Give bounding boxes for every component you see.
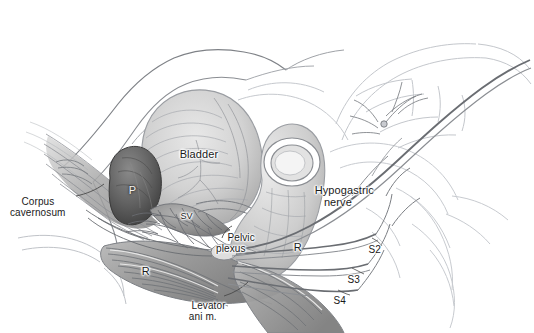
hypogastric-ganglion bbox=[381, 121, 387, 127]
label-bladder: Bladder bbox=[167, 136, 218, 172]
label-rectum-lower: R bbox=[129, 253, 150, 289]
label-seminal-vesicle: SV bbox=[170, 201, 193, 231]
label-levator-ani: Levator ani m. bbox=[180, 289, 226, 333]
label-sacral-s4: S4 bbox=[322, 284, 346, 317]
label-rectum-upper: R bbox=[281, 229, 302, 265]
label-corpus-cavernosum: Corpus cavernosum bbox=[10, 185, 65, 229]
label-prostate: P bbox=[116, 172, 136, 208]
label-sacral-s2: S2 bbox=[357, 233, 381, 266]
anatomy-illustration bbox=[0, 0, 534, 333]
anatomical-figure: Corpus cavernosum Bladder P SV Pelvic pl… bbox=[0, 0, 534, 333]
label-pelvic-plexus: Pelvic plexus bbox=[216, 221, 255, 265]
label-hypogastric-nerve: Hypogastric nerve bbox=[302, 172, 374, 220]
